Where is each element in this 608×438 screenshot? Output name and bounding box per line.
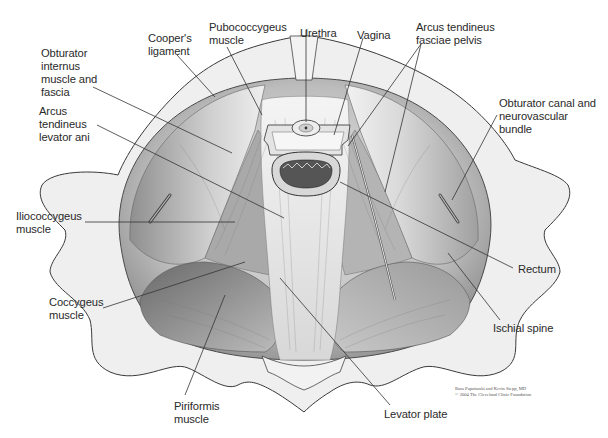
label-urethra: Urethra (300, 27, 337, 40)
label-arcus-tendineus-fasciae-pelvis: Arcus tendineus fasciae pelvis (416, 21, 495, 47)
label-coopers-ligament: Cooper's ligament (148, 32, 192, 58)
illustration-credit: Russ Papafaraki and Kevin Stepp, MD © 20… (455, 386, 531, 398)
label-ischial-spine: Ischial spine (493, 322, 553, 335)
label-vagina: Vagina (357, 29, 390, 42)
label-levator-plate: Levator plate (384, 408, 447, 421)
label-coccygeus-muscle: Coccygeus muscle (49, 296, 103, 322)
label-iliococcygeus-muscle: Iliococcygeus muscle (16, 210, 82, 236)
label-obturator-internus: Obturator internus muscle and fascia (41, 47, 97, 99)
label-obturator-canal: Obturator canal and neurovascular bundle (499, 97, 596, 136)
label-piriformis-muscle: Piriformis muscle (174, 400, 220, 426)
label-arcus-tendineus-levator-ani: Arcus tendineus levator ani (39, 105, 90, 144)
label-rectum: Rectum (518, 263, 556, 276)
label-pubococcygeus-muscle: Pubococcygeus muscle (209, 21, 287, 47)
